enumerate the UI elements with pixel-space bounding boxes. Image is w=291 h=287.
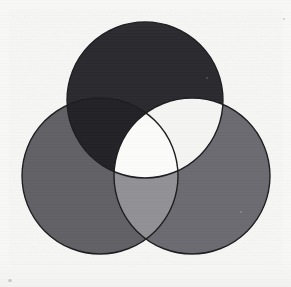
venn-diagram-figure xyxy=(0,0,291,287)
venn-diagram-canvas xyxy=(0,0,291,287)
